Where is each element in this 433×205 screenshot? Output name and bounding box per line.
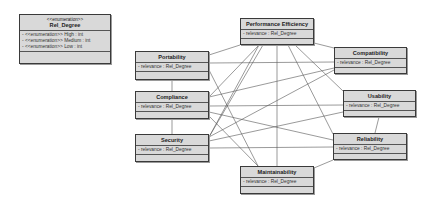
class-name: Maintainability	[241, 167, 313, 178]
class-attribute: - relevance : Rel_Degree	[334, 145, 406, 154]
operations-compartment	[335, 68, 406, 71]
class-maintainability[interactable]: Maintainability - relevance : Rel_Degree	[240, 166, 314, 194]
class-name: Usability	[344, 91, 415, 102]
operations-compartment	[241, 187, 313, 190]
enumeration-name: Rel_Degree	[50, 22, 81, 28]
class-name: Compliance	[136, 92, 208, 103]
operations-compartment	[136, 155, 208, 158]
class-security[interactable]: Security - relevance : Rel_Degree	[135, 134, 209, 162]
operations-compartment	[344, 111, 415, 114]
class-attribute: - relevance : Rel_Degree	[241, 30, 313, 39]
class-attribute: - relevance : Rel_Degree	[136, 146, 208, 155]
literal-low: - <<enumeration>> Low : int	[22, 44, 108, 50]
class-attribute: - relevance : Rel_Degree	[335, 59, 406, 68]
enumeration-header: <<enumeration>> Rel_Degree	[20, 15, 110, 31]
class-name: Performance Efficiency	[241, 19, 313, 30]
class-compliance[interactable]: Compliance - relevance : Rel_Degree	[135, 91, 209, 119]
class-attribute: - relevance : Rel_Degree	[241, 178, 313, 187]
class-compatibility[interactable]: Compatibility - relevance : Rel_Degree	[334, 47, 407, 74]
operations-compartment	[241, 39, 313, 42]
class-attribute: - relevance : Rel_Degree	[344, 102, 415, 111]
class-performance-efficiency[interactable]: Performance Efficiency - relevance : Rel…	[240, 18, 314, 45]
class-attribute: - relevance : Rel_Degree	[136, 63, 208, 72]
operations-compartment	[136, 72, 208, 75]
class-name: Portability	[136, 52, 208, 63]
operations-compartment	[20, 52, 110, 55]
operations-compartment	[334, 154, 406, 157]
class-name: Security	[136, 135, 208, 146]
class-attribute: - relevance : Rel_Degree	[136, 103, 208, 112]
class-name: Reliability	[334, 134, 406, 145]
class-reliability[interactable]: Reliability - relevance : Rel_Degree	[333, 133, 407, 160]
class-portability[interactable]: Portability - relevance : Rel_Degree	[135, 51, 209, 80]
class-usability[interactable]: Usability - relevance : Rel_Degree	[343, 90, 416, 117]
enumeration-rel-degree[interactable]: <<enumeration>> Rel_Degree - <<enumerati…	[19, 14, 111, 64]
enumeration-literals: - <<enumeration>> High : int - <<enumera…	[20, 31, 110, 52]
operations-compartment	[136, 112, 208, 115]
class-name: Compatibility	[335, 48, 406, 59]
